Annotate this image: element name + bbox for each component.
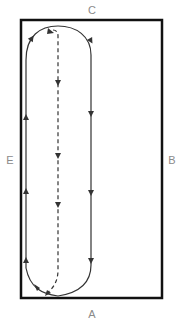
marker-a: A [88, 309, 95, 320]
arrow-down-icon [55, 80, 61, 86]
arrow-up-icon [23, 188, 29, 194]
arrow-down-icon [88, 258, 94, 264]
arena-diagram: C A E B [0, 0, 179, 325]
marker-e: E [6, 155, 13, 166]
arrow-down-icon [47, 28, 54, 34]
arena-svg [0, 0, 179, 325]
arrow-down-icon [55, 153, 61, 159]
marker-b: B [168, 155, 175, 166]
marker-c: C [88, 5, 96, 16]
arrow-up-icon [23, 114, 29, 120]
arrow-down-icon [88, 190, 94, 196]
arrow-up-icon [23, 257, 29, 263]
arrow-down-icon [55, 202, 61, 208]
arrow-down-icon [88, 111, 94, 117]
center-line-dashed-path [47, 30, 58, 293]
